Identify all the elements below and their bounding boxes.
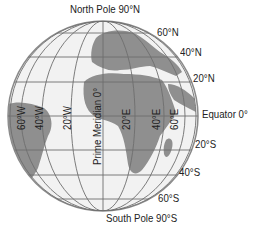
- lon-60e-label: 60°E: [168, 109, 180, 130]
- equator-label: Equator 0°: [202, 108, 248, 120]
- lat-20s-label: 20°S: [195, 138, 216, 150]
- north-pole-label: North Pole 90°N: [70, 3, 140, 15]
- lon-60w-label: 60°W: [15, 106, 27, 130]
- lat-60s-label: 60°S: [158, 192, 179, 204]
- lat-20n-label: 20°N: [193, 72, 215, 84]
- prime-meridian-label: Prime Meridian 0°: [91, 88, 103, 165]
- south-pole-label: South Pole 90°S: [106, 212, 177, 224]
- lat-60n-label: 60°N: [157, 26, 179, 38]
- lat-40s-label: 40°S: [179, 166, 200, 178]
- lon-40e-label: 40°E: [150, 109, 162, 130]
- lon-40w-label: 40°W: [33, 106, 45, 130]
- lon-20e-label: 20°E: [120, 109, 132, 130]
- lat-40n-label: 40°N: [180, 46, 202, 58]
- lon-20w-label: 20°W: [61, 106, 73, 130]
